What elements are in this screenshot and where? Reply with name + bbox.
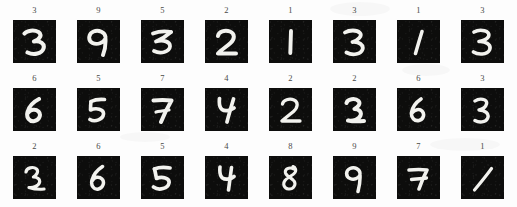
digit-label: 7 [141, 72, 184, 84]
digit-cell: 1 [269, 4, 333, 72]
digit-cell: 7 [397, 140, 461, 207]
digit-cell: 3 [461, 4, 517, 72]
digit-label: 5 [141, 140, 184, 152]
digit-image [269, 156, 312, 199]
digit-cell: 6 [397, 72, 461, 140]
digit-stroke-7 [397, 156, 440, 199]
digit-label: 6 [397, 72, 440, 84]
digit-stroke-7 [141, 88, 184, 131]
digit-stroke-4 [205, 156, 248, 199]
digit-cell: 8 [269, 140, 333, 207]
digit-label: 6 [13, 72, 56, 84]
digit-image [461, 20, 504, 63]
digit-image [397, 156, 440, 199]
digit-stroke-6 [77, 156, 120, 199]
digit-label: 1 [269, 4, 312, 16]
digit-stroke-1 [461, 156, 504, 199]
digit-cell: 2 [333, 72, 397, 140]
digit-cell: 3 [461, 72, 517, 140]
digit-stroke-4 [205, 88, 248, 131]
digit-image [141, 20, 184, 63]
digit-image [333, 88, 376, 131]
digit-stroke-1 [397, 20, 440, 63]
digit-stroke-3 [13, 20, 56, 63]
digit-label: 2 [205, 4, 248, 16]
digit-cell: 3 [333, 4, 397, 72]
digit-cell: 5 [141, 140, 205, 207]
digit-image [205, 156, 248, 199]
digit-label: 1 [397, 4, 440, 16]
digit-stroke-5 [141, 156, 184, 199]
digit-label: 2 [13, 140, 56, 152]
digit-label: 9 [77, 4, 120, 16]
digit-label: 5 [77, 72, 120, 84]
digit-image [13, 156, 56, 199]
digit-stroke-2 [333, 88, 376, 131]
digit-cell: 7 [141, 72, 205, 140]
digit-stroke-5 [141, 20, 184, 63]
digit-image [461, 156, 504, 199]
digit-image [333, 156, 376, 199]
digit-label: 3 [333, 4, 376, 16]
digit-label: 9 [333, 140, 376, 152]
digit-cell: 1 [397, 4, 461, 72]
digit-stroke-5 [77, 88, 120, 131]
digit-cell: 4 [205, 140, 269, 207]
digit-image [77, 88, 120, 131]
digit-stroke-8 [269, 156, 312, 199]
digit-stroke-3 [461, 88, 504, 131]
digit-label: 3 [461, 4, 504, 16]
digit-stroke-6 [397, 88, 440, 131]
digit-cell: 6 [77, 140, 141, 207]
digit-stroke-2 [13, 156, 56, 199]
digit-cell: 2 [13, 140, 77, 207]
digit-grid-figure: 395213136574226326548971 [0, 0, 517, 207]
digit-image [141, 156, 184, 199]
digit-image [269, 88, 312, 131]
digit-stroke-2 [205, 20, 248, 63]
digit-cell: 4 [205, 72, 269, 140]
digit-stroke-6 [13, 88, 56, 131]
digit-label: 2 [269, 72, 312, 84]
digit-grid: 395213136574226326548971 [13, 4, 517, 207]
digit-image [269, 20, 312, 63]
digit-label: 3 [461, 72, 504, 84]
digit-label: 2 [333, 72, 376, 84]
digit-stroke-9 [77, 20, 120, 63]
digit-image [13, 20, 56, 63]
digit-stroke-1 [269, 20, 312, 63]
digit-label: 1 [461, 140, 504, 152]
digit-stroke-3 [333, 20, 376, 63]
digit-cell: 9 [77, 4, 141, 72]
digit-image [77, 156, 120, 199]
digit-label: 4 [205, 140, 248, 152]
digit-label: 4 [205, 72, 248, 84]
digit-cell: 5 [77, 72, 141, 140]
digit-cell: 6 [13, 72, 77, 140]
digit-stroke-9 [333, 156, 376, 199]
digit-label: 5 [141, 4, 184, 16]
digit-image [461, 88, 504, 131]
digit-cell: 2 [205, 4, 269, 72]
digit-label: 6 [77, 140, 120, 152]
digit-image [333, 20, 376, 63]
digit-stroke-2 [269, 88, 312, 131]
digit-cell: 2 [269, 72, 333, 140]
digit-label: 7 [397, 140, 440, 152]
digit-image [397, 20, 440, 63]
digit-cell: 9 [333, 140, 397, 207]
digit-image [13, 88, 56, 131]
digit-cell: 1 [461, 140, 517, 207]
digit-image [141, 88, 184, 131]
digit-cell: 5 [141, 4, 205, 72]
digit-label: 3 [13, 4, 56, 16]
digit-image [397, 88, 440, 131]
digit-image [205, 88, 248, 131]
digit-label: 8 [269, 140, 312, 152]
digit-cell: 3 [13, 4, 77, 72]
digit-image [77, 20, 120, 63]
digit-stroke-3 [461, 20, 504, 63]
digit-image [205, 20, 248, 63]
